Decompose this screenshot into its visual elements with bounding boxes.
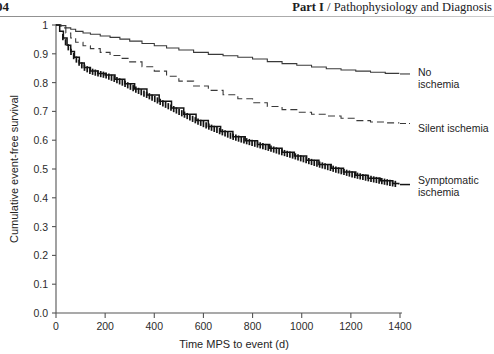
running-head-rule [0,16,494,17]
y-tick-label: 0.6 [33,134,48,146]
series-labels: NoischemiaSilent ischemiaSymptomaticisch… [400,66,489,198]
x-tick-label: 800 [244,320,262,332]
series-label-symptomatic-ischemia: Symptomatic [418,174,479,186]
series-label-symptomatic-ischemia: ischemia [418,186,460,198]
running-head-part: Part I [292,0,324,14]
x-tick-label: 400 [146,320,164,332]
x-tick-label: 200 [96,320,114,332]
y-axis-title: Cumulative event-free survival [8,95,20,243]
x-tick-label: 0 [53,320,59,332]
kaplan-meier-plot: 0.00.10.20.30.40.50.60.70.80.91 02004006… [0,18,494,354]
survival-curve-symptomatic-ischemia [56,25,399,185]
running-head-title: Part I / Pathophysiology and Diagnosis [292,0,492,15]
y-tick-label: 0.7 [33,105,48,117]
censor-tick-marks [63,34,395,187]
x-tick-label: 1400 [388,320,412,332]
x-tick-label: 1200 [339,320,363,332]
y-tick-label: 1 [42,19,48,31]
x-tick-label: 600 [195,320,213,332]
y-tick-label: 0.8 [33,77,48,89]
y-tick-label: 0.2 [33,249,48,261]
axis-titles: Cumulative event-free survivalTime MPS t… [8,95,289,350]
survival-curve-no-ischemia [56,25,399,74]
y-tick-label: 0.5 [33,163,48,175]
book-page: 04 Part I / Pathophysiology and Diagnosi… [0,0,494,354]
y-tick-label: 0.0 [33,307,48,319]
y-axis-tick-labels: 0.00.10.20.30.40.50.60.70.80.91 [33,19,48,319]
x-axis-tick-labels: 0200400600800100012001400 [53,320,412,332]
x-tick-label: 1000 [290,320,314,332]
y-tick-label: 0.9 [33,48,48,60]
survival-curves [56,25,399,185]
y-tick-label: 0.1 [33,278,48,290]
y-tick-label: 0.3 [33,221,48,233]
page-folio-number: 04 [0,0,9,15]
running-head-subject: Pathophysiology and Diagnosis [334,0,492,14]
survival-curve-figure: 0.00.10.20.30.40.50.60.70.80.91 02004006… [0,18,494,354]
survival-curve-silent-ischemia [56,25,399,124]
x-axis-title: Time MPS to event (d) [179,338,289,350]
axis-lines [56,24,402,313]
y-tick-label: 0.4 [33,192,48,204]
series-label-silent-ischemia: Silent ischemia [418,122,489,134]
running-head-separator: / [324,0,334,14]
series-label-no-ischemia: No [418,66,432,78]
series-label-no-ischemia: ischemia [418,78,460,90]
running-head: 04 Part I / Pathophysiology and Diagnosi… [0,0,494,18]
